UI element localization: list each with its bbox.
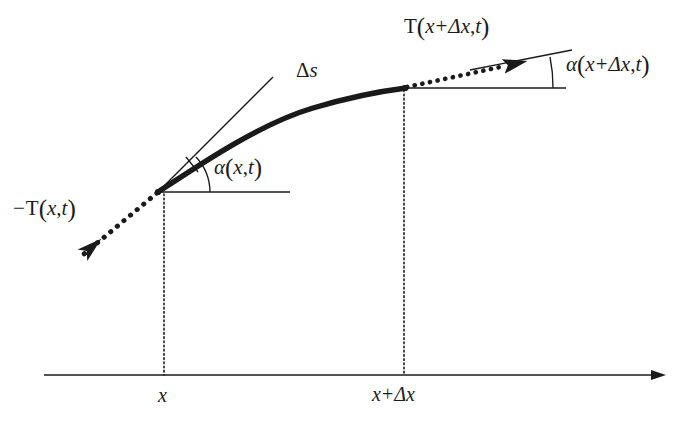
alpha-right-label: α(x+Δx,t) [566, 52, 650, 77]
tension-right-label: T(x+Δx,t) [404, 14, 489, 39]
alpha-right-symbol: α [566, 52, 577, 76]
alpha-right-close-paren: ) [641, 51, 649, 78]
tension-right-function: T [404, 14, 417, 38]
tension-right-open-paren: ( [417, 13, 425, 40]
tension-left-close-paren: ) [67, 195, 75, 222]
tick-x-plus-delta-x-label: x+Δx [372, 384, 415, 404]
tension-right-delta: Δx [448, 14, 470, 38]
tension-left-label: −T(x,t) [12, 196, 76, 221]
left-endpoint-marker [155, 189, 161, 195]
tension-left-variable: x [47, 196, 56, 220]
tension-vector-left [84, 193, 157, 254]
string-tension-diagram: T(x+Δx,t) α(x+Δx,t) −T(x,t) α(x,t) Δs x … [0, 0, 695, 427]
alpha-right-delta: Δx [609, 52, 631, 76]
alpha-left-close-paren: ) [254, 154, 262, 181]
tick-x2-plus: + [381, 383, 394, 405]
alpha-left-label: α(x,t) [214, 155, 262, 180]
tick-x2-delta: Δx [394, 383, 415, 405]
alpha-right-plus: + [595, 52, 609, 76]
tension-left-minus: − [12, 196, 26, 220]
arc-length-delta: Δ [296, 58, 310, 82]
tension-right-plus: + [434, 14, 448, 38]
tick-x2-variable: x [372, 383, 381, 405]
arc-length-variable: s [310, 58, 318, 82]
right-endpoint-marker [402, 85, 408, 91]
alpha-left-variable: x [233, 155, 242, 179]
tension-right-close-paren: ) [481, 13, 489, 40]
tension-left-open-paren: ( [39, 195, 47, 222]
tangent-line-right [470, 50, 572, 70]
alpha-right-arc [550, 57, 553, 88]
tick-x-label: x [158, 385, 167, 405]
tension-left-function: T [26, 196, 39, 220]
string-element-curve [158, 88, 406, 192]
arc-length-label: Δs [296, 60, 318, 81]
tension-vector-right [407, 66, 505, 87]
alpha-right-variable: x [585, 52, 594, 76]
alpha-left-symbol: α [214, 155, 225, 179]
tick-x-variable: x [158, 384, 167, 406]
